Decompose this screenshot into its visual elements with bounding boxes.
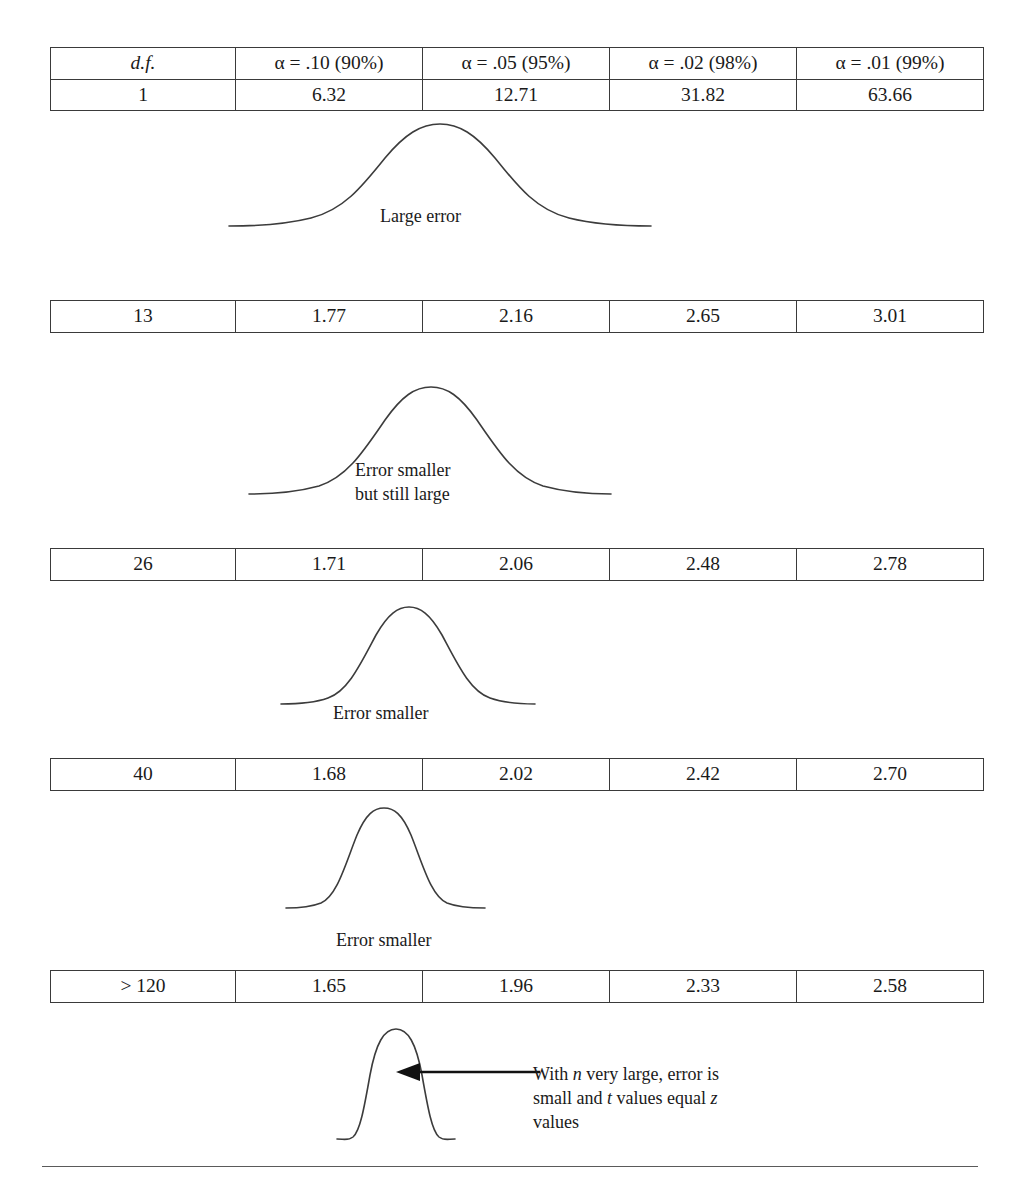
cell-a02: 2.48 <box>610 549 797 581</box>
cell-a01: 2.58 <box>797 971 984 1003</box>
annotation-line-3: values <box>533 1112 579 1132</box>
cell-df: 13 <box>51 301 236 333</box>
annotation-n-very-large: With n very large, error issmall and t v… <box>533 1063 773 1134</box>
table-row: 26 1.71 2.06 2.48 2.78 <box>51 549 984 581</box>
table-row: 1 6.32 12.71 31.82 63.66 <box>51 79 984 111</box>
curve-label-error-smaller-26: Error smaller <box>333 702 428 726</box>
bell-curve-svg <box>283 805 488 917</box>
cell-df: 40 <box>51 759 236 791</box>
table-row: 13 1.77 2.16 2.65 3.01 <box>51 301 984 333</box>
curve-label-error-smaller-but-still-large: Error smaller but still large <box>355 459 450 507</box>
cell-a01: 3.01 <box>797 301 984 333</box>
cell-a10: 1.68 <box>236 759 423 791</box>
cell-a10: 6.32 <box>236 79 423 111</box>
bell-curve-svg <box>278 603 538 713</box>
t-table-row-13: 13 1.77 2.16 2.65 3.01 <box>50 300 984 333</box>
column-header-alpha-05: α = .05 (95%) <box>423 48 610 80</box>
t-table-row-26: 26 1.71 2.06 2.48 2.78 <box>50 548 984 581</box>
annotation-line-2: small and t values equal z <box>533 1088 718 1108</box>
column-header-alpha-10: α = .10 (90%) <box>236 48 423 80</box>
table-row: > 120 1.65 1.96 2.33 2.58 <box>51 971 984 1003</box>
bottom-horizontal-rule <box>42 1166 978 1167</box>
cell-a02: 2.33 <box>610 971 797 1003</box>
cell-a01: 2.78 <box>797 549 984 581</box>
cell-df: 1 <box>51 79 236 111</box>
column-header-alpha-02: α = .02 (98%) <box>610 48 797 80</box>
cell-a01: 2.70 <box>797 759 984 791</box>
cell-a05: 1.96 <box>423 971 610 1003</box>
bell-curve-df-40 <box>283 805 488 917</box>
cell-a10: 1.71 <box>236 549 423 581</box>
column-header-alpha-01: α = .01 (99%) <box>797 48 984 80</box>
pointer-arrow <box>392 1058 542 1086</box>
cell-a02: 2.65 <box>610 301 797 333</box>
cell-a05: 2.02 <box>423 759 610 791</box>
cell-a02: 2.42 <box>610 759 797 791</box>
t-table-row-120: > 120 1.65 1.96 2.33 2.58 <box>50 970 984 1003</box>
curve-label-error-smaller-40: Error smaller <box>336 929 431 953</box>
cell-a05: 2.16 <box>423 301 610 333</box>
bell-curve-df-26 <box>278 603 538 713</box>
bell-curve-path <box>286 808 485 908</box>
cell-a01: 63.66 <box>797 79 984 111</box>
t-table-row-40: 40 1.68 2.02 2.42 2.70 <box>50 758 984 791</box>
curve-label-large-error: Large error <box>380 205 461 229</box>
cell-a10: 1.65 <box>236 971 423 1003</box>
cell-df: 26 <box>51 549 236 581</box>
cell-a10: 1.77 <box>236 301 423 333</box>
cell-a05: 12.71 <box>423 79 610 111</box>
arrow-head <box>396 1063 420 1081</box>
annotation-line-1: With n very large, error is <box>533 1064 719 1084</box>
t-table-header: d.f. α = .10 (90%) α = .05 (95%) α = .02… <box>50 47 984 111</box>
cell-df: > 120 <box>51 971 236 1003</box>
table-row: 40 1.68 2.02 2.42 2.70 <box>51 759 984 791</box>
table-header-row: d.f. α = .10 (90%) α = .05 (95%) α = .02… <box>51 48 984 80</box>
column-header-df: d.f. <box>51 48 236 80</box>
document-page: d.f. α = .10 (90%) α = .05 (95%) α = .02… <box>0 0 1020 1183</box>
bell-curve-path <box>281 607 535 704</box>
cell-a02: 31.82 <box>610 79 797 111</box>
cell-a05: 2.06 <box>423 549 610 581</box>
